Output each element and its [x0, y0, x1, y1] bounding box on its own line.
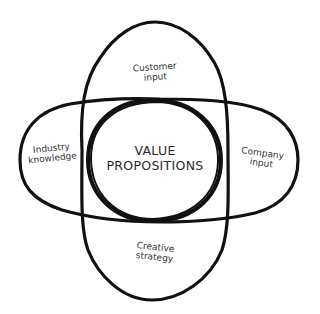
value-propositions-line2: PROPOSITIONS [103, 158, 207, 173]
value-propositions-line1: VALUE [103, 143, 207, 158]
value-propositions-label: VALUE PROPOSITIONS [103, 143, 207, 173]
